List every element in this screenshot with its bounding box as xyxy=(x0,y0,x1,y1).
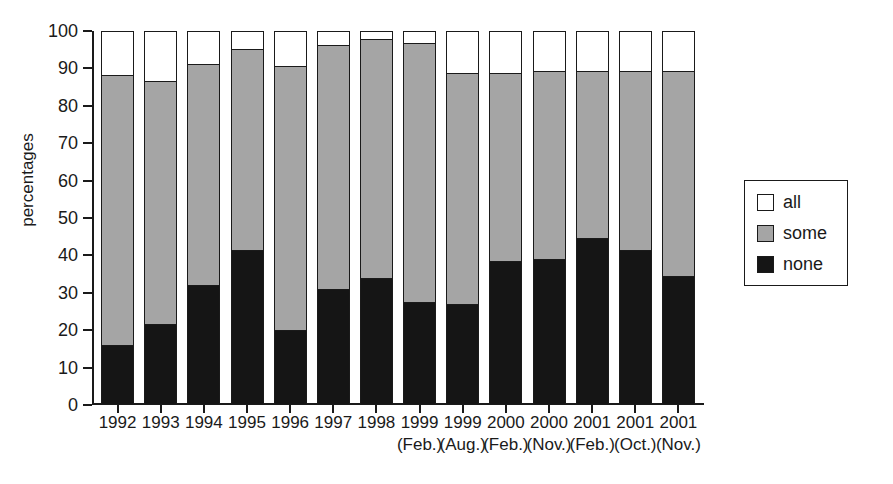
bar-segment-none xyxy=(447,305,478,404)
bar xyxy=(662,31,695,405)
y-tick-label: 10 xyxy=(58,357,78,378)
bar-segment-some xyxy=(361,39,392,278)
y-tick-label: 30 xyxy=(58,282,78,303)
bar-segment-none xyxy=(490,262,521,404)
legend-item-all: all xyxy=(757,193,837,211)
bar xyxy=(403,31,436,405)
bar-segment-none xyxy=(275,331,306,404)
y-tick xyxy=(83,217,92,219)
bar-segment-none xyxy=(188,286,219,404)
black-swatch-icon xyxy=(757,256,774,273)
bar xyxy=(187,31,220,405)
legend-label-all: all xyxy=(783,193,801,211)
y-tick-label: 100 xyxy=(48,21,78,42)
bar-segment-some xyxy=(490,73,521,262)
bar-segment-none xyxy=(620,251,651,404)
bar-segment-some xyxy=(318,45,349,290)
legend-item-none: none xyxy=(757,255,837,273)
bar-segment-some xyxy=(188,64,219,287)
bar xyxy=(533,31,566,405)
y-tick-label: 60 xyxy=(58,170,78,191)
gray-swatch-icon xyxy=(757,225,774,242)
y-tick-label: 40 xyxy=(58,245,78,266)
bar xyxy=(446,31,479,405)
y-axis-title: percentages xyxy=(18,100,38,260)
legend-item-some: some xyxy=(757,224,837,242)
white-swatch-icon xyxy=(757,194,774,211)
y-tick-label: 70 xyxy=(58,133,78,154)
bar-segment-none xyxy=(145,325,176,404)
bar-segment-some xyxy=(145,81,176,326)
y-tick-label: 90 xyxy=(58,58,78,79)
y-tick-label: 20 xyxy=(58,320,78,341)
y-tick xyxy=(83,254,92,256)
bar-segment-some xyxy=(577,71,608,239)
x-axis-labels: 19921993199419951996199719981999(Feb.)19… xyxy=(92,412,704,472)
x-label-month: (Nov.) xyxy=(650,434,706,456)
y-tick-label: 80 xyxy=(58,95,78,116)
bar-segment-some xyxy=(663,71,694,277)
bar xyxy=(576,31,609,405)
bar-segment-some xyxy=(232,49,263,251)
bar-segment-none xyxy=(577,239,608,404)
bar-segment-some xyxy=(404,43,435,303)
y-tick xyxy=(83,292,92,294)
y-tick xyxy=(83,105,92,107)
bar-segment-none xyxy=(663,277,694,404)
y-tick xyxy=(83,67,92,69)
bar xyxy=(317,31,350,405)
bar xyxy=(101,31,134,405)
bar-segment-none xyxy=(534,260,565,404)
y-tick-label: 50 xyxy=(58,208,78,229)
bar-segment-none xyxy=(361,279,392,404)
x-tick-label: 2001(Nov.) xyxy=(650,412,706,456)
bar-group xyxy=(92,31,704,405)
y-tick-label: 0 xyxy=(68,395,78,416)
bar-segment-some xyxy=(620,71,651,251)
y-tick xyxy=(83,180,92,182)
bar xyxy=(360,31,393,405)
bar-segment-some xyxy=(102,75,133,346)
legend-label-none: none xyxy=(783,255,823,273)
y-tick xyxy=(83,404,92,406)
legend-label-some: some xyxy=(783,224,827,242)
bar-segment-none xyxy=(404,303,435,404)
y-tick xyxy=(83,30,92,32)
y-tick xyxy=(83,142,92,144)
bar-segment-some xyxy=(534,71,565,260)
y-tick xyxy=(83,329,92,331)
bar-segment-none xyxy=(102,346,133,404)
x-label-year: 2001 xyxy=(650,412,706,434)
bar-segment-none xyxy=(232,251,263,404)
plot-area: 0102030405060708090100 xyxy=(92,31,704,405)
y-tick xyxy=(83,367,92,369)
chart-legend: all some none xyxy=(744,180,848,286)
bar-segment-some xyxy=(447,73,478,305)
bar xyxy=(274,31,307,405)
bar xyxy=(489,31,522,405)
bar xyxy=(619,31,652,405)
bar xyxy=(231,31,264,405)
bar xyxy=(144,31,177,405)
bar-segment-some xyxy=(275,66,306,332)
bar-segment-none xyxy=(318,290,349,404)
stacked-bar-chart: percentages 0102030405060708090100 19921… xyxy=(0,0,893,484)
